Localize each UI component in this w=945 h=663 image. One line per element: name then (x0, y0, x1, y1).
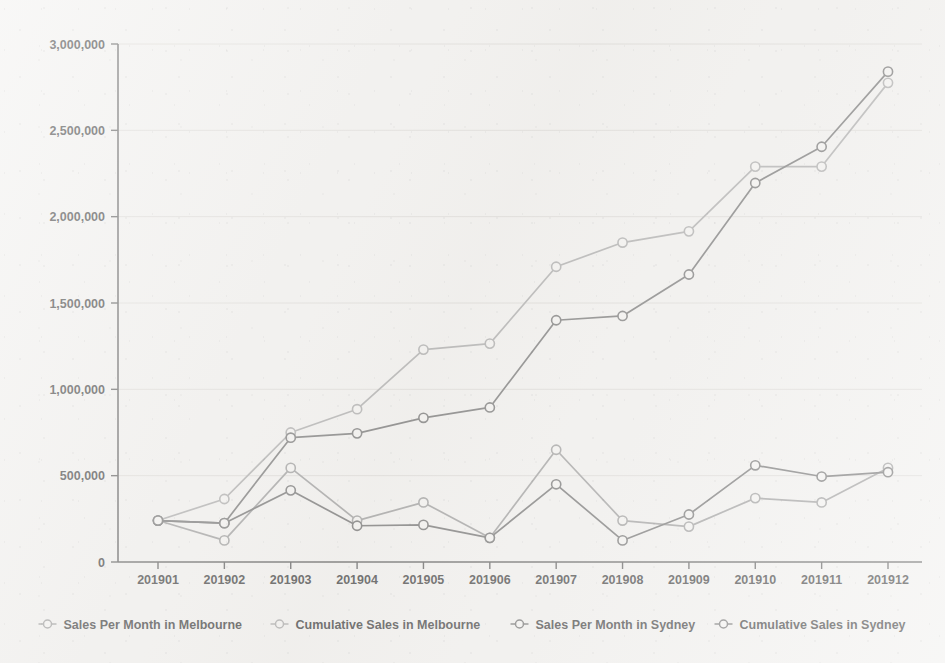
y-axis-ticks: 0500,0001,000,0001,500,0002,000,0002,500… (49, 38, 118, 570)
y-axis-tick-label: 1,500,000 (49, 297, 105, 311)
data-point-marker[interactable] (485, 403, 494, 412)
legend-item-0[interactable]: Sales Per Month in Melbourne (39, 618, 243, 632)
line-chart: 0500,0001,000,0001,500,0002,000,0002,500… (0, 0, 945, 663)
chart-canvas: 0500,0001,000,0001,500,0002,000,0002,500… (0, 0, 945, 663)
data-point-marker[interactable] (751, 461, 760, 470)
y-axis-tick-label: 2,500,000 (49, 124, 105, 138)
series-1 (153, 78, 892, 525)
legend-marker-icon (516, 620, 524, 628)
data-point-marker[interactable] (618, 238, 627, 247)
legend-item-label: Sales Per Month in Melbourne (64, 618, 243, 632)
data-point-marker[interactable] (419, 498, 428, 507)
y-axis-tick-label: 500,000 (60, 469, 105, 483)
data-point-marker[interactable] (684, 510, 693, 519)
data-point-marker[interactable] (220, 536, 229, 545)
grid-lines (118, 44, 922, 476)
x-axis-tick-label: 201910 (734, 573, 776, 587)
series-line (158, 450, 888, 541)
x-axis-tick-label: 201906 (469, 573, 511, 587)
legend-item-1[interactable]: Cumulative Sales in Melbourne (271, 618, 481, 632)
x-axis-tick-label: 201901 (137, 573, 179, 587)
series-line (158, 465, 888, 540)
data-point-marker[interactable] (220, 494, 229, 503)
data-point-marker[interactable] (352, 521, 361, 530)
data-point-marker[interactable] (817, 162, 826, 171)
y-axis-tick-label: 0 (98, 556, 105, 570)
legend-item-2[interactable]: Sales Per Month in Sydney (511, 618, 696, 632)
data-point-marker[interactable] (286, 433, 295, 442)
data-point-marker[interactable] (618, 516, 627, 525)
data-point-marker[interactable] (552, 262, 561, 271)
chart-legend: Sales Per Month in MelbourneCumulative S… (39, 618, 906, 632)
data-point-marker[interactable] (552, 480, 561, 489)
data-point-marker[interactable] (684, 270, 693, 279)
data-point-marker[interactable] (286, 486, 295, 495)
x-axis-tick-label: 201907 (535, 573, 577, 587)
data-point-marker[interactable] (153, 516, 162, 525)
data-point-marker[interactable] (751, 162, 760, 171)
x-axis-tick-label: 201909 (668, 573, 710, 587)
data-point-marker[interactable] (684, 227, 693, 236)
data-point-marker[interactable] (817, 142, 826, 151)
x-axis-tick-label: 201902 (204, 573, 246, 587)
data-point-marker[interactable] (618, 311, 627, 320)
data-point-marker[interactable] (352, 405, 361, 414)
data-point-marker[interactable] (817, 498, 826, 507)
data-point-marker[interactable] (220, 519, 229, 528)
legend-item-label: Cumulative Sales in Sydney (740, 618, 906, 632)
y-axis-tick-label: 3,000,000 (49, 38, 105, 52)
legend-item-label: Cumulative Sales in Melbourne (296, 618, 481, 632)
series-line (158, 83, 888, 521)
data-point-marker[interactable] (419, 413, 428, 422)
legend-marker-icon (44, 620, 52, 628)
data-point-marker[interactable] (485, 533, 494, 542)
x-axis-tick-label: 201903 (270, 573, 312, 587)
data-point-marker[interactable] (618, 536, 627, 545)
legend-marker-icon (276, 620, 284, 628)
x-axis-tick-label: 201911 (801, 573, 842, 587)
x-axis-tick-label: 201905 (403, 573, 445, 587)
data-point-marker[interactable] (419, 520, 428, 529)
data-point-marker[interactable] (883, 468, 892, 477)
x-axis-tick-label: 201908 (602, 573, 644, 587)
data-point-marker[interactable] (286, 463, 295, 472)
data-point-marker[interactable] (817, 472, 826, 481)
legend-item-3[interactable]: Cumulative Sales in Sydney (715, 618, 906, 632)
data-point-marker[interactable] (352, 429, 361, 438)
data-point-marker[interactable] (552, 316, 561, 325)
x-axis-ticks: 2019012019022019032019042019052019062019… (137, 562, 909, 587)
data-point-marker[interactable] (751, 494, 760, 503)
data-point-marker[interactable] (883, 78, 892, 87)
y-axis-tick-label: 1,000,000 (49, 383, 105, 397)
x-axis-tick-label: 201912 (867, 573, 909, 587)
legend-item-label: Sales Per Month in Sydney (536, 618, 696, 632)
data-point-marker[interactable] (485, 339, 494, 348)
x-axis-tick-label: 201904 (336, 573, 378, 587)
data-point-marker[interactable] (751, 178, 760, 187)
series-2 (153, 461, 892, 545)
y-axis-tick-label: 2,000,000 (49, 210, 105, 224)
data-point-marker[interactable] (419, 345, 428, 354)
data-point-marker[interactable] (684, 522, 693, 531)
data-point-marker[interactable] (883, 67, 892, 76)
legend-marker-icon (720, 620, 728, 628)
data-point-marker[interactable] (552, 445, 561, 454)
series-plot-area (153, 67, 892, 545)
